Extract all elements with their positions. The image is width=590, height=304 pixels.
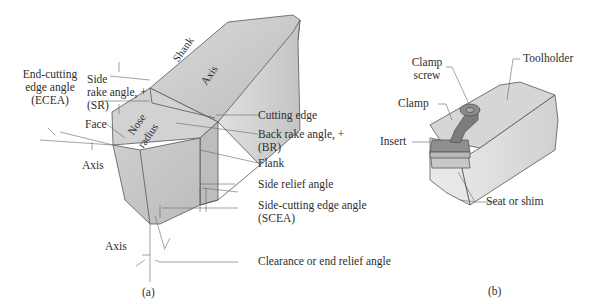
caption-b: (b) xyxy=(488,285,501,298)
clamp-screw-line-1: Clamp xyxy=(405,56,449,69)
flank-label: Flank xyxy=(258,157,284,170)
sr-line-2: rake angle, + xyxy=(87,86,147,99)
ecea-line-1: End-cutting xyxy=(20,68,80,81)
scea-label: Side-cutting edge angle (SCEA) xyxy=(258,199,367,225)
side-relief-label: Side relief angle xyxy=(258,178,333,191)
clamp-screw-line-2: screw xyxy=(405,69,449,82)
end-face xyxy=(113,138,200,224)
br-line-2: (BR) xyxy=(258,141,344,154)
face-label: Face xyxy=(85,118,107,131)
clearance-label: Clearance or end relief angle xyxy=(258,255,391,268)
clamp-label: Clamp xyxy=(398,97,429,110)
axis-bottom-label: Axis xyxy=(105,240,127,253)
caption-a: (a) xyxy=(142,286,155,299)
axis-left-label: Axis xyxy=(82,159,104,172)
ecea-line-2: edge angle xyxy=(20,81,80,94)
clamp-screw-label: Clamp screw xyxy=(405,56,449,82)
side-rake-label: Side rake angle, + (SR) xyxy=(87,73,147,112)
scea-line-1: Side-cutting edge angle xyxy=(258,199,367,212)
sr-line-3: (SR) xyxy=(87,99,147,112)
back-rake-label: Back rake angle, + (BR) xyxy=(258,128,344,154)
cutting-edge-label: Cutting edge xyxy=(258,109,317,122)
toolholder-b xyxy=(430,82,558,205)
scea-line-2: (SCEA) xyxy=(258,212,367,225)
ecea-line-3: (ECEA) xyxy=(20,94,80,107)
br-line-1: Back rake angle, + xyxy=(258,128,344,141)
ecea-label: End-cutting edge angle (ECEA) xyxy=(20,68,80,107)
insert-label: Insert xyxy=(380,135,406,148)
sr-line-1: Side xyxy=(87,73,147,86)
toolholder-label: Toolholder xyxy=(523,52,573,65)
seat-label: Seat or shim xyxy=(486,195,544,208)
